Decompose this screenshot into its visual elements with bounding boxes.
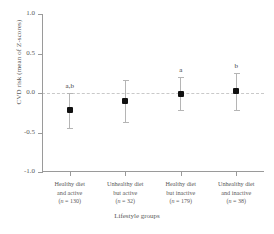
error-bar-cap-upper <box>67 93 73 94</box>
category-sample-size: (n = 32) <box>95 197 155 206</box>
y-tick-label: 0.0 <box>26 88 35 96</box>
category-label-line2: but active <box>113 189 137 196</box>
y-axis-title: CVD risk (mean of Z-scores) <box>15 0 23 127</box>
category-label-line1: Healthy diet <box>166 180 196 187</box>
y-tick: -0.5 <box>38 133 43 134</box>
category-label: Unhealthy dietbut active(n = 32) <box>95 180 155 206</box>
x-tick <box>181 172 182 176</box>
error-bar-cap-lower <box>234 110 240 111</box>
category-label-line2: but inactive <box>166 189 195 196</box>
category-label-line1: Healthy diet <box>55 180 85 187</box>
data-point-marker <box>67 107 73 113</box>
error-bar-cap-lower <box>123 122 129 123</box>
x-tick <box>125 172 126 176</box>
significance-annotation: a <box>171 66 191 74</box>
zero-reference-line <box>42 93 264 94</box>
y-tick-label: 1.0 <box>26 9 35 17</box>
x-axis-line <box>42 171 264 172</box>
category-sample-size: (n = 38) <box>206 197 266 206</box>
error-bar-cap-lower <box>178 110 184 111</box>
category-label-line1: Unhealthy diet <box>218 180 255 187</box>
category-label-line2: and active <box>57 189 82 196</box>
error-bar-cap-upper <box>123 80 129 81</box>
category-sample-size: (n = 179) <box>151 197 211 206</box>
category-sample-size: (n = 130) <box>40 197 100 206</box>
significance-annotation: b <box>226 62 246 70</box>
category-label: Healthy dietbut inactive(n = 179) <box>151 180 211 206</box>
y-tick-label: 0.5 <box>26 49 35 57</box>
y-tick-label: -1.0 <box>24 167 35 175</box>
cvd-risk-chart-figure: CVD risk (mean of Z-scores) 1.00.50.0-0.… <box>0 0 274 234</box>
category-label: Healthy dietand active(n = 130) <box>40 180 100 206</box>
y-tick: 1.0 <box>38 14 43 15</box>
category-label-line2: and inactive <box>221 189 251 196</box>
error-bar-cap-lower <box>67 128 73 129</box>
data-point-marker <box>233 88 239 94</box>
error-bar-cap-upper <box>178 77 184 78</box>
y-tick: 0.5 <box>38 54 43 55</box>
y-tick: 0.0 <box>38 93 43 94</box>
data-point-marker <box>178 91 184 97</box>
x-axis-title: Lifestyle groups <box>0 212 274 220</box>
y-tick: -1.0 <box>38 172 43 173</box>
error-bar-cap-upper <box>234 73 240 74</box>
category-label: Unhealthy dietand inactive(n = 38) <box>206 180 266 206</box>
plot-area: 1.00.50.0-0.5-1.0 a,bab <box>42 14 264 172</box>
data-point-marker <box>122 98 128 104</box>
x-tick <box>236 172 237 176</box>
category-label-line1: Unhealthy diet <box>107 180 144 187</box>
y-tick-label: -0.5 <box>24 128 35 136</box>
x-tick <box>70 172 71 176</box>
significance-annotation: a,b <box>60 82 80 90</box>
